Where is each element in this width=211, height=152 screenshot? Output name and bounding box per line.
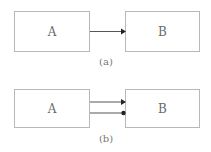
arrow-a-to-b: [90, 29, 126, 35]
connectors: [0, 0, 211, 152]
arrowhead-triangle-icon: [121, 29, 126, 35]
arrowhead-dot-icon: [121, 111, 125, 115]
arrow-a-to-b-triangle: [90, 99, 126, 105]
arrow-a-to-b-dot: [90, 111, 126, 115]
arrowhead-triangle-icon: [121, 99, 126, 105]
